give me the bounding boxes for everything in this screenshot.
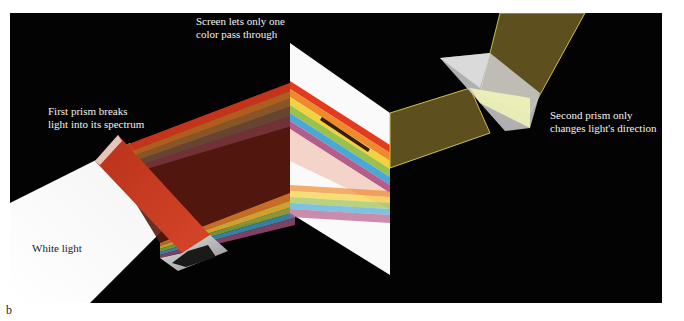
screen-label: Screen lets only one color pass through	[196, 15, 285, 41]
second-prism-label-line-1: Second prism only	[550, 109, 656, 122]
diagram-panel: Screen lets only one color pass through …	[10, 13, 662, 303]
white-light-label: White light	[32, 242, 82, 255]
second-prism-label: Second prism only changes light's direct…	[550, 109, 656, 135]
first-prism-label: First prism breaks light into its spectr…	[48, 105, 144, 131]
screen-label-line-1: Screen lets only one	[196, 15, 285, 28]
screen-label-line-2: color pass through	[196, 28, 285, 41]
panel-letter: b	[6, 303, 12, 318]
first-prism-label-line-1: First prism breaks	[48, 105, 144, 118]
second-prism-label-line-2: changes light's direction	[550, 122, 656, 135]
passed-beam	[390, 88, 490, 168]
first-prism-label-line-2: light into its spectrum	[48, 118, 144, 131]
prism-experiment-illustration	[10, 13, 662, 303]
